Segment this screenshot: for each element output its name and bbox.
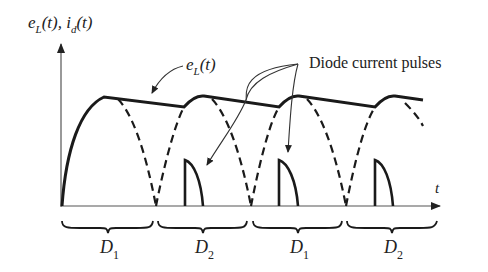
x-axis-label: t — [435, 180, 440, 196]
envelope-pointer-arrow — [152, 66, 183, 93]
envelope-label: eL(t) — [186, 55, 216, 77]
pulses-label: Diode current pulses — [309, 54, 441, 72]
y-axis-label: eL(t), id(t) — [28, 13, 93, 35]
interval-label-2: D2 — [194, 237, 214, 262]
pulses-pointer-arrows — [207, 64, 298, 165]
rectifier-waveform-diagram: eL(t), id(t) t eL(t) Diode current pulse… — [0, 0, 488, 272]
pulse-2 — [279, 160, 298, 206]
interval-label-4: D2 — [383, 237, 403, 262]
envelope-el — [62, 96, 423, 206]
diode-current-pulses — [185, 160, 393, 206]
interval-label-1: D1 — [99, 237, 119, 262]
interval-label-3: D1 — [289, 237, 309, 262]
pulse-1 — [185, 160, 203, 206]
pulse-3 — [375, 160, 393, 206]
rectified-sine-dashed — [118, 99, 423, 206]
interval-braces — [62, 221, 437, 233]
